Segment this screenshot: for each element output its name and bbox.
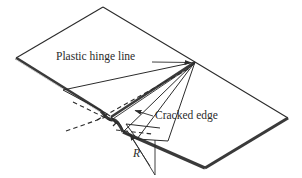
figure-plastic-hinge-plate: Plastic hinge line Cracked edge R — [0, 0, 302, 178]
label-radius-r: R — [133, 148, 140, 160]
label-plastic-hinge-line: Plastic hinge line — [56, 51, 135, 63]
plate-drawing-svg — [0, 0, 302, 178]
label-cracked-edge: Cracked edge — [155, 110, 218, 122]
leader-plastic-hinge-line — [152, 62, 191, 63]
plate-thickness-bands — [16, 58, 288, 168]
